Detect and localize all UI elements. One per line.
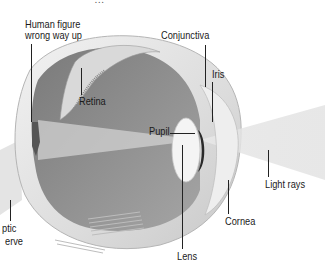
- leader-pupil: [170, 133, 195, 134]
- leader-conjunctiva: [205, 45, 206, 87]
- leader-human-figure: [31, 44, 32, 122]
- label-light-rays: Light rays: [265, 179, 305, 190]
- label-lens: Lens: [177, 251, 197, 262]
- label-pupil: Pupil: [149, 126, 170, 137]
- label-optic-nerve: ptic: [2, 223, 16, 234]
- caption-fragment: …: [95, 0, 104, 5]
- label-cornea: Cornea: [225, 216, 255, 227]
- leader-optic-nerve: [10, 200, 11, 221]
- leader-lens: [182, 145, 183, 249]
- leader-cornea: [228, 180, 229, 214]
- leader-retina: [81, 68, 82, 95]
- label-retina: Retina: [79, 96, 106, 107]
- label-human-figure-line2: wrong way up: [25, 30, 82, 41]
- label-optic-nerve-line2: erve: [5, 236, 23, 247]
- leader-light-rays: [268, 150, 269, 177]
- label-conjunctiva: Conjunctiva: [161, 30, 209, 41]
- leader-iris: [212, 82, 213, 122]
- lens-shape: [172, 118, 200, 182]
- label-iris: Iris: [212, 69, 224, 80]
- eye-anatomy-diagram: … Human figure wrong way up Retina Conju…: [0, 0, 325, 269]
